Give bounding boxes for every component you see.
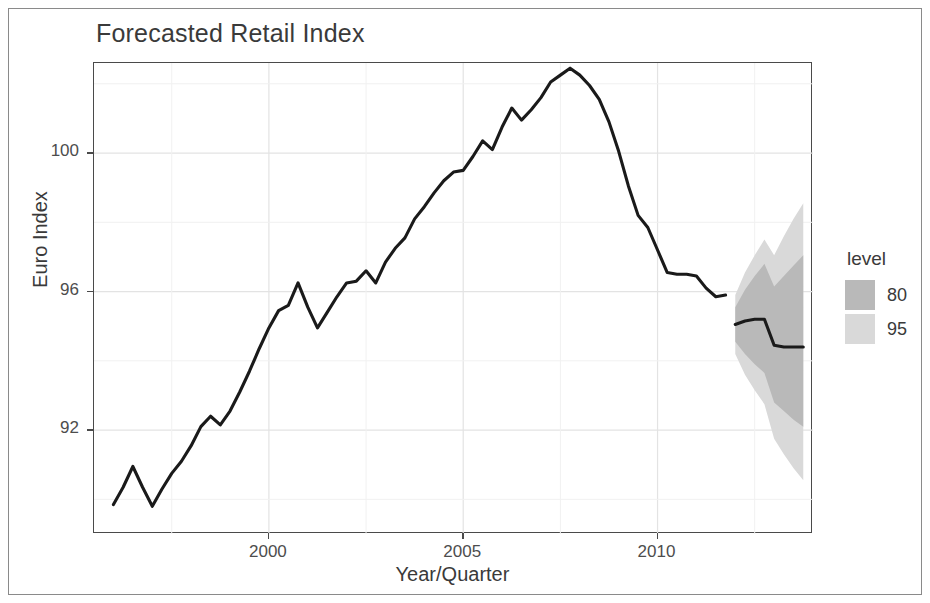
legend-item-95[interactable]: 95 [845,314,925,344]
y-tick-mark [87,429,93,431]
x-tick-label: 2000 [223,542,313,562]
x-tick-mark [462,533,464,539]
y-tick-label: 96 [9,280,79,300]
y-tick-label: 92 [9,418,79,438]
x-tick-label: 2005 [417,542,507,562]
legend-title: level [847,248,925,270]
y-tick-mark [87,291,93,293]
legend-key-80 [845,280,875,310]
x-axis-label: Year/Quarter [93,563,812,586]
legend-item-80[interactable]: 80 [845,280,925,310]
plot-panel [93,62,812,533]
x-tick-label: 2010 [612,542,702,562]
x-tick-mark [268,533,270,539]
legend-key-95 [845,314,875,344]
y-tick-mark [87,152,93,154]
y-axis-label: Euro Index [29,130,52,350]
legend: level 80 95 [845,248,925,348]
legend-label-95: 95 [887,319,907,340]
figure-canvas: Forecasted Retail Index Euro Index Year/… [0,0,930,603]
y-tick-label: 100 [9,141,79,161]
plot-svg [94,63,813,534]
page-title: Forecasted Retail Index [96,19,365,48]
x-tick-mark [657,533,659,539]
legend-label-80: 80 [887,285,907,306]
